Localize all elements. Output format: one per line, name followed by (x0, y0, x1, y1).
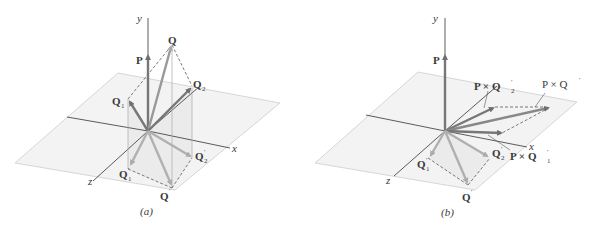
svg-text:Q: Q (417, 158, 426, 170)
z-axis-label: z (87, 175, 93, 187)
label-P: P (136, 54, 143, 66)
svg-text:1: 1 (547, 157, 551, 165)
x-axis-label: x (231, 142, 237, 154)
svg-text:1: 1 (121, 102, 125, 110)
z-axis-label: z (385, 174, 391, 186)
svg-text:′: ′ (579, 76, 581, 84)
svg-text:Q: Q (195, 150, 204, 162)
label-Q-prime: Q ′ (462, 188, 473, 203)
svg-text:P × Q: P × Q (474, 80, 501, 92)
label-PxQ-prime: P × Q ′ (542, 76, 581, 90)
svg-text:P × Q: P × Q (510, 150, 537, 162)
svg-text:′: ′ (511, 78, 513, 86)
svg-text:Q: Q (462, 191, 471, 203)
panel-a: y x z P Q Q 1 Q 2 Q 1 ′ Q 2 ′ Q ′ (a) (15, 12, 280, 218)
svg-text:Q: Q (112, 95, 121, 107)
svg-text:Q: Q (492, 147, 501, 159)
figure-canvas: y x z P Q Q 1 Q 2 Q 1 ′ Q 2 ′ Q ′ (a) (0, 0, 593, 233)
svg-text:2: 2 (511, 87, 515, 95)
svg-text:2: 2 (202, 85, 206, 93)
svg-text:2: 2 (204, 157, 208, 165)
y-axis-label: y (432, 12, 438, 24)
svg-text:Q: Q (160, 190, 169, 202)
panel-b: y x z P P × Q 2 ′ P × Q ′ P × Q 1 ′ Q 1 … (315, 12, 581, 219)
label-Q-prime: Q ′ (160, 187, 171, 202)
svg-text:′: ′ (547, 148, 549, 156)
label-P: P (433, 54, 440, 66)
svg-text:2: 2 (501, 154, 505, 162)
svg-text:1: 1 (128, 175, 132, 183)
svg-text:Q: Q (119, 168, 128, 180)
caption-a: (a) (140, 205, 153, 218)
svg-text:P × Q: P × Q (542, 78, 567, 90)
label-PxQ1-prime: P × Q 1 ′ (510, 148, 551, 165)
svg-text:1: 1 (426, 165, 430, 173)
caption-b: (b) (441, 206, 454, 219)
label-Q: Q (168, 34, 177, 46)
svg-text:Q: Q (193, 78, 202, 90)
y-axis-label: y (136, 12, 142, 24)
